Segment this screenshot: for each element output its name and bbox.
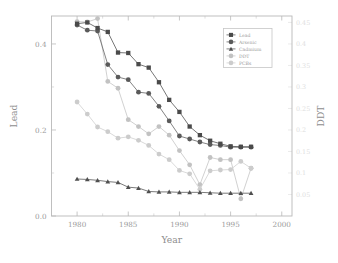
data-point <box>208 168 213 173</box>
x-tick-label: 1995 <box>221 220 240 229</box>
x-tick-label: 2000 <box>273 220 292 229</box>
legend-label: Lead <box>239 33 251 38</box>
y-axis-tick-labels: 0.00.20.4 <box>35 40 47 221</box>
legend-label: Cadmium <box>239 47 262 52</box>
data-point <box>95 16 100 21</box>
data-point <box>218 157 223 162</box>
legend-label: PCBs <box>239 61 252 66</box>
data-point <box>157 104 162 109</box>
data-point <box>126 117 131 122</box>
right-tick-label: 0.05 <box>296 191 310 199</box>
data-point <box>198 133 202 137</box>
chart-figure: 0.050.10.150.20.250.30.350.40.45 1980198… <box>0 0 338 263</box>
right-tick-label: 0.15 <box>296 148 310 156</box>
legend-item-pcbs[interactable]: PCBs <box>227 61 252 66</box>
y-tick-label: 0.4 <box>35 40 47 49</box>
data-point <box>177 148 182 153</box>
y-axis-title: Lead <box>8 104 19 127</box>
data-point <box>106 30 110 34</box>
data-point <box>146 131 151 136</box>
data-point <box>208 139 212 143</box>
legend-label: DDT <box>239 54 250 59</box>
data-point <box>105 79 110 84</box>
right-tick-label: 0.1 <box>296 169 306 177</box>
data-point <box>116 86 121 91</box>
data-point <box>85 28 90 33</box>
data-point <box>136 90 141 95</box>
data-point <box>136 138 141 143</box>
data-point <box>146 143 151 148</box>
data-point <box>229 61 234 66</box>
data-point <box>187 171 192 176</box>
data-point <box>146 91 151 96</box>
data-point <box>95 125 100 130</box>
data-point <box>239 145 243 149</box>
data-point <box>187 162 192 167</box>
data-point <box>197 140 202 145</box>
right-tick-label: 0.25 <box>296 105 310 113</box>
right-tick-label: 0.4 <box>296 40 306 48</box>
x-tick-label: 1985 <box>119 220 138 229</box>
data-point <box>167 98 171 102</box>
y-tick-label: 0.0 <box>35 212 47 221</box>
data-point <box>228 144 232 148</box>
series-line <box>77 102 251 189</box>
data-point <box>126 77 131 82</box>
right-tick-label: 0.3 <box>296 83 306 91</box>
data-point <box>116 50 120 54</box>
right-axis-ticks <box>288 22 292 194</box>
x-axis-title: Year <box>160 234 182 245</box>
data-point <box>75 22 79 26</box>
series-cadmium <box>75 177 254 195</box>
data-point <box>105 62 110 67</box>
legend[interactable]: LeadArsenicCadmiumDDTPCBs <box>224 29 273 68</box>
data-point <box>208 142 213 147</box>
data-point <box>126 185 131 189</box>
plot-canvas: 0.050.10.150.20.250.30.350.40.45 1980198… <box>0 0 338 263</box>
right-tick-label: 0.35 <box>296 62 310 70</box>
data-point <box>116 136 121 141</box>
right-tick-label: 0.2 <box>296 126 306 134</box>
data-point <box>177 110 181 114</box>
data-point <box>75 100 80 105</box>
data-point <box>238 196 243 201</box>
data-point <box>228 157 233 162</box>
data-point <box>249 145 253 149</box>
data-point <box>228 167 233 172</box>
x-tick-label: 1980 <box>68 220 87 229</box>
data-point <box>167 133 172 138</box>
right-tick-label: 0.45 <box>296 19 310 27</box>
data-point <box>208 155 213 160</box>
y-axis-ticks <box>52 44 57 216</box>
data-point <box>85 112 90 117</box>
legend-item-arsenic[interactable]: Arsenic <box>227 40 258 45</box>
data-point <box>157 80 161 84</box>
data-point <box>229 54 234 59</box>
data-point <box>116 75 121 80</box>
data-point <box>85 20 89 24</box>
data-point <box>218 142 222 146</box>
data-point <box>218 168 223 173</box>
data-point <box>229 40 234 45</box>
data-point <box>157 124 162 129</box>
data-point <box>136 124 141 129</box>
right-axis-tick-labels: 0.050.10.150.20.250.30.350.40.45 <box>296 19 310 199</box>
data-point <box>177 134 182 139</box>
data-point <box>126 134 131 139</box>
data-point <box>167 157 172 162</box>
data-point <box>229 33 233 37</box>
x-tick-label: 1990 <box>170 220 189 229</box>
data-point <box>126 51 130 55</box>
series-line <box>77 179 251 193</box>
legend-label: Arsenic <box>238 40 257 45</box>
data-point <box>167 119 172 124</box>
data-point <box>157 152 162 157</box>
data-point <box>105 129 110 134</box>
right-axis-title: DDT <box>315 105 326 127</box>
y-tick-label: 0.2 <box>35 126 46 135</box>
x-axis-tick-labels: 19801985199019952000 <box>68 220 291 229</box>
data-point <box>249 166 254 171</box>
data-point <box>238 159 243 164</box>
data-point <box>187 137 192 142</box>
data-point <box>177 168 182 173</box>
